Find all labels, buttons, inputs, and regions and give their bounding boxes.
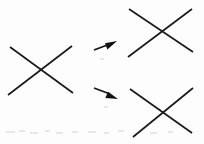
scan-noise-speck [72,131,78,133]
arrow-upper-icon [94,41,117,50]
scan-noise-speck [104,106,108,108]
x-rotation-diagram [0,0,204,144]
result-x-upper-ascending-stroke [128,9,192,57]
result-x-lower-shape [130,88,193,137]
arrow-lower-icon [94,88,118,99]
scan-noise-speck [168,131,173,133]
scan-noise-speck [56,132,63,134]
scan-noise-speck [6,131,15,133]
scan-noise-artifacts [6,58,173,134]
arrow-upper-head [105,41,117,49]
scan-noise-speck [150,132,157,134]
scan-noise-speck [100,58,104,60]
source-x-shape [8,46,73,95]
scan-noise-speck [104,132,109,134]
scan-noise-speck [19,130,25,132]
scan-noise-speck [118,130,124,132]
scan-noise-speck [30,132,38,134]
result-x-upper-shape [128,9,193,57]
scan-noise-speck [45,130,50,132]
diagram-canvas [0,0,204,144]
scan-noise-speck [88,131,96,133]
result-x-lower-ascending-stroke [133,88,193,137]
